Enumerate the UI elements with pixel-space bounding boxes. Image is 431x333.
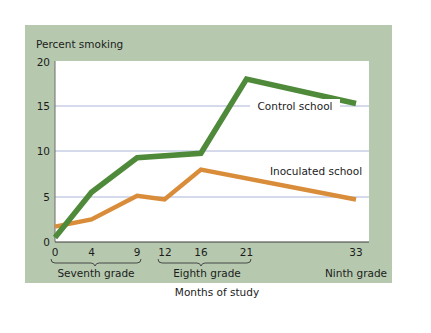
x-tick-33: 33 [349, 246, 362, 258]
y-tick-10: 10 [37, 145, 50, 157]
seventh-grade-label: Seventh grade [57, 267, 134, 279]
grade-braces [51, 259, 251, 266]
y-tick-15: 15 [37, 100, 50, 112]
ninth-grade-label: Ninth grade [325, 267, 387, 279]
x-tick-4: 4 [88, 246, 95, 258]
x-tick-16: 16 [194, 246, 208, 258]
x-tick-9: 9 [134, 246, 141, 258]
x-tick-12: 12 [158, 246, 171, 258]
x-tick-0: 0 [52, 246, 59, 258]
y-axis-label: Percent smoking [36, 38, 123, 50]
line-chart: Percent smoking 20 15 10 5 0 0 4 9 12 16… [0, 0, 431, 333]
seventh-grade-brace [51, 259, 141, 266]
eighth-grade-label: Eighth grade [173, 267, 241, 279]
inoculated-school-label: Inoculated school [270, 165, 362, 177]
y-tick-0: 0 [43, 236, 50, 248]
eighth-grade-brace [158, 259, 251, 266]
x-tick-labels: 0 4 9 12 16 21 33 [52, 246, 363, 258]
x-axis-label: Months of study [175, 286, 259, 298]
control-school-label: Control school [258, 100, 333, 112]
y-tick-labels: 20 15 10 5 0 [37, 56, 50, 248]
x-tick-21: 21 [240, 246, 253, 258]
y-tick-5: 5 [43, 191, 50, 203]
y-tick-20: 20 [37, 56, 50, 68]
